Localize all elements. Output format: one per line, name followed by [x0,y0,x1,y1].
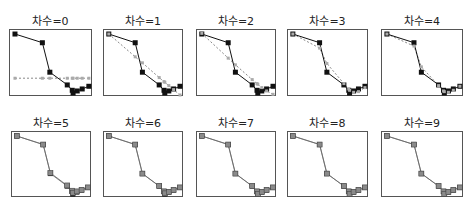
data-marker [157,82,162,87]
fit-marker [356,188,361,193]
plot-area [287,29,368,96]
fit-line [109,136,180,193]
plot-area [381,131,463,197]
fit-marker [291,33,294,36]
fit-marker [226,142,231,147]
data-line [15,34,89,93]
data-marker [419,70,424,75]
fit-marker [363,86,366,89]
chart-panel-degree-6: 차수=6 [103,109,183,197]
chart-panel-degree-7: 차수=7 [196,109,276,197]
fit-marker [260,86,263,89]
fit-marker [76,77,79,80]
fit-marker [81,77,84,80]
panel-title: 차수=0 [9,12,92,28]
fit-marker [178,185,183,190]
fit-marker [341,184,346,189]
fit-marker [65,183,70,188]
data-line [293,136,365,194]
fit-marker [362,185,367,190]
panel-title: 차수=9 [381,114,463,130]
fit-marker [133,142,138,147]
plot-svg [104,132,184,198]
panel-title: 차수=8 [287,114,368,130]
data-marker [80,86,85,91]
fit-marker [167,84,170,87]
chart-panel-degree-0: 차수=0 [9,7,92,96]
data-marker [47,70,52,75]
fit-marker [227,57,230,60]
chart-panel-degree-3: 차수=3 [287,7,368,96]
panel-title: 차수=3 [287,12,368,28]
chart-panel-degree-2: 차수=2 [196,7,276,96]
chart-panel-degree-5: 차수=5 [11,109,91,197]
data-line [387,34,460,93]
plot-svg [197,30,277,97]
fit-marker [14,133,19,138]
data-line [293,34,365,93]
fit-marker [325,62,328,65]
plot-svg [288,132,369,198]
data-line [109,136,180,194]
fit-marker [437,84,440,87]
fit-marker [256,83,259,86]
panel-title: 차수=4 [381,12,463,28]
fit-marker [384,133,389,138]
fit-marker [179,93,182,96]
fit-marker [385,33,388,36]
fit-marker [13,77,16,80]
plot-area [196,29,276,96]
fit-marker [411,142,416,147]
chart-panel-degree-4: 차수=4 [381,7,463,96]
data-marker [133,40,138,45]
plot-area [9,29,92,96]
plot-area [381,29,463,96]
data-marker [75,88,80,93]
fit-marker [451,188,456,193]
data-marker [250,82,255,87]
fit-marker [171,188,176,193]
plot-area [103,131,183,197]
panel-title: 차수=5 [11,114,91,130]
fit-marker [233,171,238,176]
fit-marker [140,171,145,176]
fit-marker [457,185,462,190]
fit-marker [265,89,268,92]
fit-marker [234,63,237,66]
fit-marker [348,89,351,92]
fit-line [202,136,273,194]
fit-marker [357,90,360,93]
fit-marker [134,55,137,58]
chart-panel-degree-9: 차수=9 [381,109,463,197]
fit-marker [87,77,90,80]
plot-area [103,29,183,96]
panel-title: 차수=6 [103,114,183,130]
chart-panel-degree-1: 차수=1 [103,7,183,96]
fit-marker [290,133,295,138]
panel-title: 차수=1 [103,12,183,28]
fit-marker [200,32,203,35]
data-line [202,136,273,194]
plot-svg [104,30,184,97]
fit-marker [251,78,254,81]
fit-marker [419,171,424,176]
data-marker [271,84,276,89]
fit-line [293,34,365,92]
data-marker [317,40,322,45]
fit-line [17,136,88,193]
fit-marker [199,133,204,138]
fit-marker [264,188,269,193]
fit-marker [452,89,455,92]
data-marker [40,40,45,45]
data-line [387,136,460,194]
fit-marker [250,184,255,189]
panel-title: 차수=7 [196,114,276,130]
fit-line [387,34,460,92]
plot-area [11,131,91,197]
fit-line [293,136,365,194]
fit-marker [66,77,69,80]
data-marker [324,70,329,75]
fit-marker [79,188,84,193]
fit-marker [157,184,162,189]
chart-panel-degree-8: 차수=8 [287,109,368,197]
